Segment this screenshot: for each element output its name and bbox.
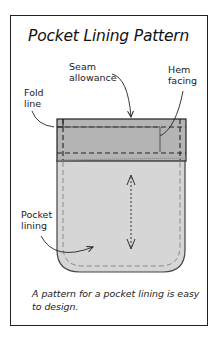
diagram-caption: A pattern for a pocket lining is easy to… [32, 288, 202, 313]
fold-line-leader [32, 111, 54, 127]
hem-facing-band [57, 119, 186, 161]
seam-allowance-leader [112, 74, 131, 117]
caption-line: A pattern for a pocket lining is easy [32, 288, 202, 301]
caption-line: to design. [32, 301, 202, 314]
pocket-lining-shape [57, 160, 185, 272]
